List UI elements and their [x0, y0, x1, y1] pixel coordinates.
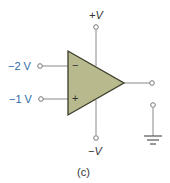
negative-supply-label: −V	[88, 145, 103, 157]
inverting-input-terminal[interactable]	[38, 64, 43, 69]
figure-caption: (c)	[77, 166, 90, 178]
noninverting-input-terminal[interactable]	[39, 97, 44, 102]
inverting-sign: −	[72, 59, 78, 71]
ground-terminal[interactable]	[151, 103, 156, 108]
noninverting-input-label: −1 V	[9, 93, 33, 105]
ground-icon	[144, 136, 162, 144]
noninverting-sign: +	[72, 92, 78, 104]
opamp-circuit-diagram: −2 V −1 V − + +V −V (c)	[0, 0, 170, 183]
positive-supply-terminal[interactable]	[94, 25, 99, 30]
output-terminal[interactable]	[150, 81, 155, 86]
positive-supply-label: +V	[89, 9, 104, 21]
negative-supply-terminal[interactable]	[94, 136, 99, 141]
inverting-input-label: −2 V	[8, 60, 32, 72]
